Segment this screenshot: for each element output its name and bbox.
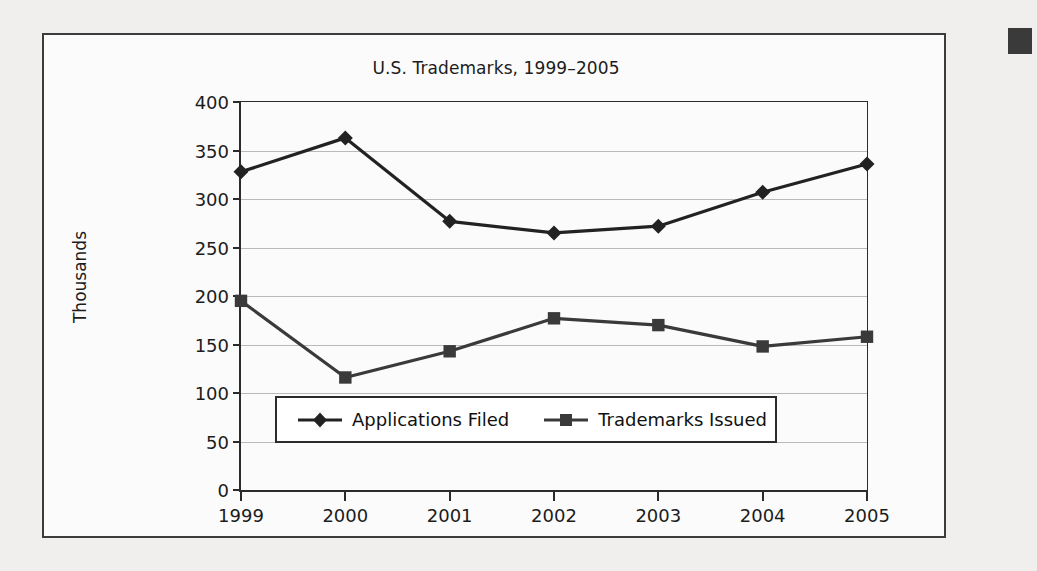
y-tick-label: 200 <box>195 286 229 307</box>
diamond-marker-icon <box>297 410 343 430</box>
series-applications-filed <box>234 130 875 240</box>
y-tick-label: 350 <box>195 140 229 161</box>
x-tick-mark <box>657 490 659 501</box>
data-point-diamond <box>547 225 562 240</box>
x-tick-mark <box>344 490 346 501</box>
x-tick-label: 2000 <box>322 505 368 526</box>
y-tick-label: 400 <box>195 92 229 113</box>
y-tick-mark <box>233 247 241 249</box>
data-point-square <box>235 295 247 307</box>
x-tick-mark <box>762 490 764 501</box>
data-point-diamond <box>234 164 249 179</box>
x-tick-mark <box>866 490 868 501</box>
data-point-diamond <box>755 185 770 200</box>
plot-area: 050100150200250300350400 199920002001200… <box>239 101 868 492</box>
y-tick-mark <box>233 150 241 152</box>
legend-entry-trademarks-issued: Trademarks Issued <box>543 409 767 430</box>
x-tick-mark <box>240 490 242 501</box>
square-marker-icon <box>543 410 589 430</box>
page-tab-mark <box>1008 28 1032 54</box>
x-tick-mark <box>553 490 555 501</box>
y-tick-label: 50 <box>206 431 229 452</box>
legend-label-trademarks-issued: Trademarks Issued <box>598 409 767 430</box>
y-tick-mark <box>233 101 241 103</box>
x-tick-label: 2004 <box>740 505 786 526</box>
legend-entry-applications-filed: Applications Filed <box>297 409 509 430</box>
y-tick-label: 150 <box>195 334 229 355</box>
x-tick-label: 2005 <box>844 505 890 526</box>
y-tick-label: 250 <box>195 237 229 258</box>
x-tick-label: 2003 <box>635 505 681 526</box>
data-point-square <box>861 331 873 343</box>
x-tick-label: 2002 <box>531 505 577 526</box>
chart-title: U.S. Trademarks, 1999–2005 <box>44 58 948 78</box>
legend-label-applications-filed: Applications Filed <box>352 409 509 430</box>
data-point-square <box>339 371 351 383</box>
x-tick-label: 1999 <box>218 505 264 526</box>
data-point-square <box>443 345 455 357</box>
y-tick-mark <box>233 344 241 346</box>
series-trademarks-issued <box>235 295 873 384</box>
series-line <box>241 138 867 233</box>
x-tick-label: 2001 <box>427 505 473 526</box>
chart-figure: U.S. Trademarks, 1999–2005 Thousands 050… <box>42 33 946 538</box>
y-tick-mark <box>233 392 241 394</box>
data-point-diamond <box>860 157 875 172</box>
y-tick-mark <box>233 198 241 200</box>
y-tick-label: 0 <box>218 480 229 501</box>
y-tick-label: 300 <box>195 189 229 210</box>
x-tick-mark <box>449 490 451 501</box>
data-point-square <box>652 319 664 331</box>
y-tick-label: 100 <box>195 383 229 404</box>
data-point-square <box>548 312 560 324</box>
y-axis-title: Thousands <box>70 197 90 357</box>
data-point-diamond <box>651 219 666 234</box>
chart-legend: Applications Filed Trademarks Issued <box>275 396 777 443</box>
y-tick-mark <box>233 441 241 443</box>
data-point-square <box>756 340 768 352</box>
